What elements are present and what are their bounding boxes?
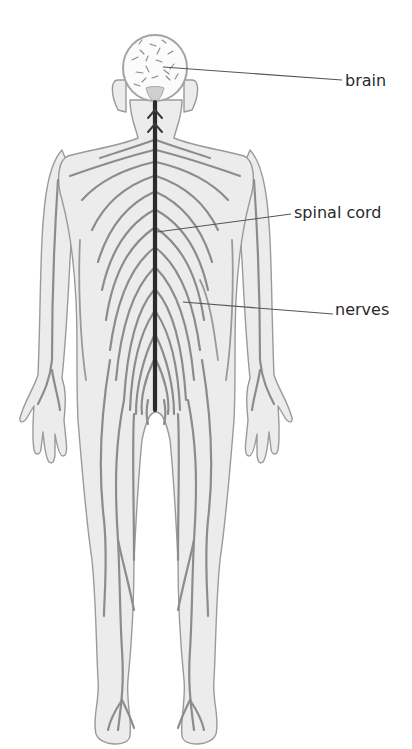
leader-line-brain xyxy=(163,67,342,80)
label-spinal-cord: spinal cord xyxy=(294,205,381,221)
nervous-system-diagram xyxy=(0,0,412,749)
label-brain: brain xyxy=(345,73,386,89)
label-nerves: nerves xyxy=(335,302,389,318)
